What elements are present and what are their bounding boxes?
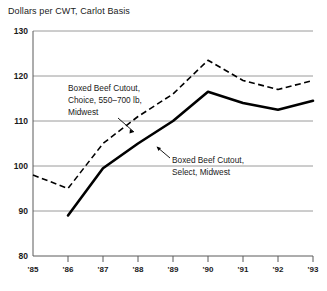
y-tick-label-120: 120 [14,71,28,81]
x-axis-ticks [68,256,313,262]
annotation-choice-line3: Midwest [68,107,99,117]
annotation-choice-line2: Choice, 550–700 lb, [68,95,142,105]
x-tick-label-90: '90 [203,265,214,274]
annotation-choice-line1: Boxed Beef Cutout, [68,83,140,93]
x-tick-label-89: '89 [168,265,179,274]
y-tick-label-110: 110 [14,116,28,126]
x-tick-label-91: '91 [238,265,249,274]
x-tick-label-93: '93 [308,265,319,274]
x-tick-label-85: '85 [28,265,39,274]
chart-plot-area: 130 120 110 100 90 80 '85 '86 '87 '88 '8… [0,0,327,291]
annotation-select-line1: Boxed Beef Cutout, [172,155,244,165]
y-tick-label-100: 100 [14,161,28,171]
chart-container: Dollars per CWT, Carlot Basis 130 120 [0,0,327,291]
x-tick-label-87: '87 [98,265,109,274]
y-tick-label-130: 130 [14,26,28,36]
y-tick-label-80: 80 [19,251,29,261]
annotation-choice: Boxed Beef Cutout, Choice, 550–700 lb, M… [68,83,142,117]
series-line-select [68,92,313,216]
x-tick-label-88: '88 [133,265,144,274]
y-tick-label-90: 90 [19,206,29,216]
x-tick-label-92: '92 [273,265,284,274]
annotation-select-line2: Select, Midwest [172,167,231,177]
x-tick-label-86: '86 [63,265,74,274]
